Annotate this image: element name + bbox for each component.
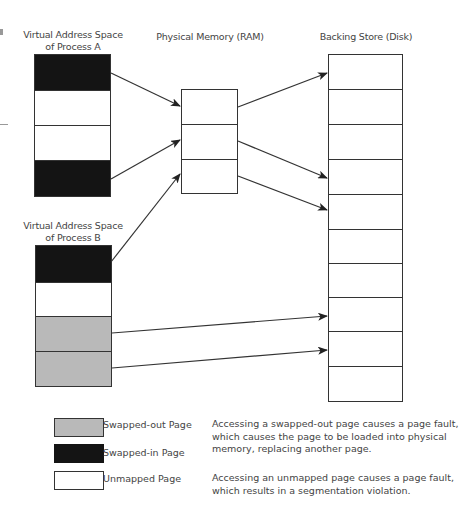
arrow-b0-to-ram2	[111, 174, 180, 262]
legend-note-swapped-out: Accessing a swapped-out page causes a pa…	[212, 418, 460, 456]
legend-label-swapped-in: Swapped-in Page	[103, 447, 185, 458]
arrow-ram1-to-disk3	[238, 141, 327, 178]
arrow-b3-to-disk8	[112, 350, 327, 368]
legend-swatch-swapped-out	[54, 418, 104, 437]
legend-label-swapped-out: Swapped-out Page	[103, 419, 192, 430]
arrow-ram0-to-disk0	[238, 73, 327, 107]
arrow-b2-to-disk7	[112, 316, 327, 333]
legend-label-unmapped: Unmapped Page	[103, 473, 181, 484]
arrow-a3-to-ram1	[111, 140, 180, 179]
arrow-ram2-to-disk4	[238, 176, 327, 210]
legend-note-unmapped: Accessing an unmapped page causes a page…	[212, 472, 464, 497]
arrow-a0-to-ram0	[111, 73, 180, 106]
legend-swatch-unmapped	[54, 471, 104, 490]
legend-swatch-swapped-in	[54, 444, 104, 463]
